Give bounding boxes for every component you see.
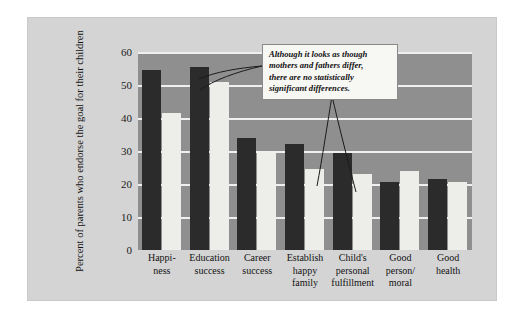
x-axis-label-line: happy xyxy=(281,265,329,278)
bar-mothers-5 xyxy=(380,182,399,250)
bar-fathers-0 xyxy=(162,113,181,250)
x-axis-label-line: Career xyxy=(233,252,281,265)
x-axis-label-6: Goodhealth xyxy=(424,252,472,277)
x-axis-label-line: Child's xyxy=(329,252,377,265)
y-axis-tick-label: 60 xyxy=(121,46,132,58)
x-axis-label-line: ness xyxy=(138,265,186,278)
x-axis-label-line: Good xyxy=(377,252,425,265)
bar-fathers-1 xyxy=(210,82,229,250)
x-axis-label-line: Establish xyxy=(281,252,329,265)
annotation-line-2: mothers and fathers differ, xyxy=(269,60,392,71)
bar-fathers-4 xyxy=(353,174,372,250)
x-axis-label-0: Happi-ness xyxy=(138,252,186,277)
x-axis-labels: Happi-nessEducationsuccessCareersuccessE… xyxy=(138,252,472,296)
gridline xyxy=(138,151,472,153)
x-axis-label-line: success xyxy=(186,265,234,278)
annotation-callout: Although it looks as though mothers and … xyxy=(262,44,398,100)
x-axis-label-3: Establishhappyfamily xyxy=(281,252,329,290)
bar-fathers-2 xyxy=(257,153,276,250)
x-axis-label-1: Educationsuccess xyxy=(186,252,234,277)
bar-mothers-3 xyxy=(285,144,304,250)
annotation-line-1: Although it looks as though xyxy=(269,49,392,60)
x-axis-label-line: Education xyxy=(186,252,234,265)
x-axis-label-line: success xyxy=(233,265,281,278)
x-axis-label-line: Happi- xyxy=(138,252,186,265)
bar-fathers-5 xyxy=(400,171,419,250)
y-axis-tick-label: 50 xyxy=(121,79,132,91)
y-axis-tick-label: 40 xyxy=(121,112,132,124)
y-axis-title-text: Percent of parents who endorse the goal … xyxy=(73,30,87,272)
x-axis-label-2: Careersuccess xyxy=(233,252,281,277)
bar-mothers-6 xyxy=(428,179,447,250)
x-axis-label-line: person/ xyxy=(377,265,425,278)
x-axis-label-line: moral xyxy=(377,277,425,290)
x-axis-label-line: fulfillment xyxy=(329,277,377,290)
x-axis-label-line: health xyxy=(424,265,472,278)
bar-fathers-6 xyxy=(448,182,467,250)
y-axis-tick-label: 30 xyxy=(121,145,132,157)
bar-mothers-4 xyxy=(333,153,352,250)
figure-panel: Percent of parents who endorse the goal … xyxy=(28,18,496,300)
bar-mothers-1 xyxy=(190,67,209,250)
x-axis-label-5: Goodperson/moral xyxy=(377,252,425,290)
annotation-line-3: there are no statistically xyxy=(269,72,392,83)
x-axis-label-line: Good xyxy=(424,252,472,265)
x-axis-label-4: Child'spersonalfulfillment xyxy=(329,252,377,290)
gridline xyxy=(138,118,472,120)
bar-fathers-3 xyxy=(305,169,324,250)
y-axis-tick-label: 20 xyxy=(121,178,132,190)
bar-mothers-0 xyxy=(142,70,161,250)
x-axis-label-line: family xyxy=(281,277,329,290)
y-axis-tick-label: 0 xyxy=(127,244,133,256)
x-axis-label-line: personal xyxy=(329,265,377,278)
annotation-line-4: significant differences. xyxy=(269,83,392,94)
bar-mothers-2 xyxy=(237,138,256,250)
y-axis-tick-label: 10 xyxy=(121,211,132,223)
y-axis-title: Percent of parents who endorse the goal … xyxy=(62,52,98,250)
